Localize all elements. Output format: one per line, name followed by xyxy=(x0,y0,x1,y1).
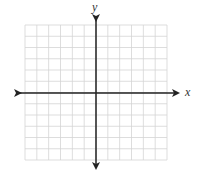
x-axis-label: x xyxy=(185,86,190,98)
coordinate-plane xyxy=(0,0,198,173)
y-axis-label: y xyxy=(92,1,97,13)
